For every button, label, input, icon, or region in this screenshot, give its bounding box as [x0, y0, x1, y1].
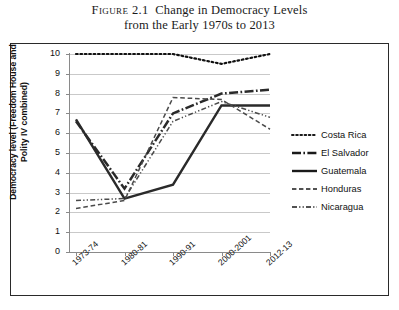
y-tick-label: 8: [34, 88, 60, 98]
series-line-guatemala: [76, 105, 270, 198]
legend-label: Costa Rica: [321, 130, 366, 140]
y-tick-label: 9: [34, 68, 60, 78]
y-tick-label: 7: [34, 107, 60, 117]
solid-line-key: [291, 166, 318, 176]
y-tick-label: 4: [34, 167, 60, 177]
figure-container: Figure 2.1 Change in Democracy Levels fr…: [0, 0, 399, 310]
dash-dot-dot-line-key: [291, 202, 318, 212]
legend-label: Nicaragua: [321, 202, 363, 212]
caption-line-2: from the Early 1970s to 2013: [0, 18, 399, 33]
plot-area: [70, 54, 270, 252]
dashed-line-key: [291, 184, 318, 194]
legend-label: Honduras: [321, 184, 361, 194]
data-series-group: [70, 54, 270, 252]
y-tick-label: 10: [34, 48, 60, 58]
legend-item-nicaragua: Nicaragua: [291, 198, 387, 216]
figure-number: Figure 2.1: [92, 3, 149, 17]
y-tick-label: 5: [34, 147, 60, 157]
y-axis-title-line-2: Polity IV combined): [19, 82, 29, 162]
y-axis-title: Democracy level (Freedom House and Polit…: [8, 34, 42, 210]
dotted-line-key: [291, 130, 318, 140]
legend-item-costa-rica: Costa Rica: [291, 126, 387, 144]
legend-label: Guatemala: [321, 166, 366, 176]
y-tick-mark: [66, 252, 70, 253]
figure-caption: Figure 2.1 Change in Democracy Levels fr…: [0, 3, 399, 33]
y-tick-label: 2: [34, 206, 60, 216]
dash-dot-thick-line-key: [291, 148, 318, 158]
legend-item-honduras: Honduras: [291, 180, 387, 198]
y-tick-label: 1: [34, 226, 60, 236]
chart-legend: Costa RicaEl SalvadorGuatemalaHondurasNi…: [291, 126, 387, 216]
x-axis-line: [69, 252, 271, 253]
caption-title-1: Change in Democracy Levels: [155, 3, 307, 17]
legend-item-el-salvador: El Salvador: [291, 144, 387, 162]
y-tick-label: 0: [34, 246, 60, 256]
y-axis-title-line-1: Democracy level (Freedom House and: [8, 44, 18, 200]
series-line-costa-rica: [76, 54, 270, 64]
legend-item-guatemala: Guatemala: [291, 162, 387, 180]
y-tick-label: 6: [34, 127, 60, 137]
legend-label: El Salvador: [321, 148, 369, 158]
y-tick-label: 3: [34, 187, 60, 197]
caption-line-1: Figure 2.1 Change in Democracy Levels: [0, 3, 399, 18]
